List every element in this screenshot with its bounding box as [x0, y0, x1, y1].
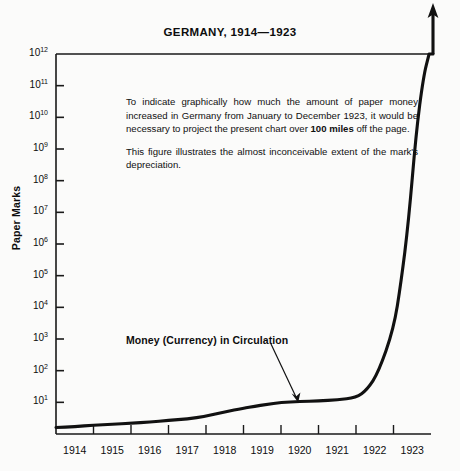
y-axis-ticks [56, 86, 64, 403]
off-chart-arrow-icon [428, 3, 439, 54]
chart-container: GERMANY, 1914—1923 Paper Marks 101210111… [0, 0, 460, 471]
series-line-money-in-circulation [56, 54, 433, 428]
callout-arrow-icon [271, 344, 300, 402]
x-axis-ticks [94, 425, 394, 434]
plot-area [0, 0, 460, 471]
